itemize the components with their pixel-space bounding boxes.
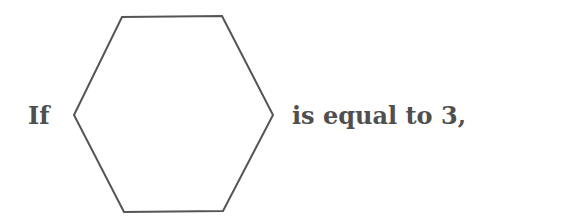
suffix-text: is equal to 3, [292, 104, 466, 128]
hexagon-diagram [0, 0, 578, 221]
hexagon-shape [74, 16, 273, 212]
